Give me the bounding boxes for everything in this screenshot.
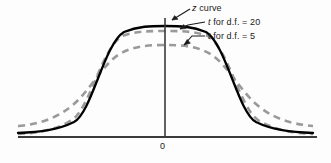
label-z-text: curve	[197, 3, 222, 13]
plot-area	[0, 0, 331, 163]
label-t-df20: t for d.f. = 20	[208, 18, 260, 27]
label-t-df5: t for d.f. = 5	[208, 32, 255, 41]
label-z-curve: z curve	[192, 4, 222, 13]
label-t20-text: for d.f. = 20	[211, 17, 261, 27]
label-t5-text: for d.f. = 5	[211, 31, 256, 41]
leader-t-df5	[184, 36, 205, 45]
distribution-comparison-figure: z curve t for d.f. = 20 t for d.f. = 5 0	[0, 0, 331, 163]
leader-z-curve	[172, 9, 190, 20]
axis-origin-label: 0	[160, 142, 165, 151]
